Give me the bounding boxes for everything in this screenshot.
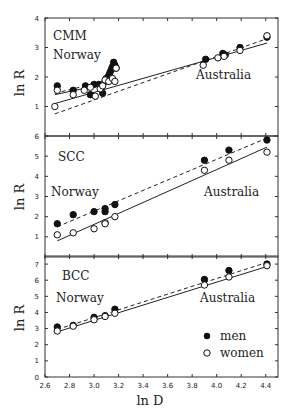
x-tick-label: 2.8 <box>64 382 75 390</box>
data-point-men <box>54 221 60 227</box>
data-point-women <box>70 230 76 236</box>
y-tick-label: 4 <box>35 309 40 317</box>
x-tick-label: 4.0 <box>211 382 222 390</box>
y-tick-label: 6 <box>35 133 40 141</box>
data-point-men <box>91 208 97 214</box>
y-tick-label: 7 <box>35 261 39 269</box>
data-point-women <box>54 328 60 334</box>
data-point-women <box>52 103 58 109</box>
legend-women-marker-icon <box>204 350 210 356</box>
data-point-women <box>221 53 227 59</box>
y-tick-label: 2 <box>35 213 39 221</box>
data-point-women <box>264 262 270 268</box>
data-point-women <box>112 310 118 316</box>
data-point-women <box>264 149 270 155</box>
panel-title-cmm: CMM <box>53 29 87 43</box>
data-point-women <box>102 313 108 319</box>
panel-title-bcc: BCC <box>62 269 89 283</box>
data-point-women <box>70 323 76 329</box>
legend-men-marker-icon <box>204 333 210 339</box>
data-point-women <box>54 232 60 238</box>
y-tick-label: 1 <box>35 233 39 241</box>
data-point-men <box>226 147 232 153</box>
annotation-australia-cmm: Australia <box>195 68 251 82</box>
data-point-women <box>91 317 97 323</box>
data-point-men <box>112 201 118 207</box>
x-tick-label: 3.8 <box>187 382 198 390</box>
data-point-women <box>102 221 108 227</box>
x-tick-label: 3.0 <box>88 382 99 390</box>
y-tick-label: 4 <box>35 15 40 23</box>
annotation-australia-scc: Australia <box>203 185 259 199</box>
y-axis-title-bcc: ln R <box>12 304 27 332</box>
annotation-australia-bcc: Australia <box>199 291 255 305</box>
x-axis-title: ln D <box>136 393 163 408</box>
y-axis-title-cmm: ln R <box>12 69 27 97</box>
legend: men women <box>204 329 264 360</box>
legend-women-label: women <box>220 346 264 360</box>
y-tick-label: 1 <box>35 357 39 365</box>
data-point-men <box>201 157 207 163</box>
data-point-women <box>81 87 87 93</box>
y-tick-label: 3 <box>35 325 39 333</box>
y-tick-label: 2 <box>35 74 39 82</box>
y-tick-label: 3 <box>35 193 39 201</box>
data-point-women <box>113 65 119 71</box>
x-tick-label: 4.2 <box>236 382 247 390</box>
x-tick-label: 3.2 <box>113 382 124 390</box>
data-point-men <box>102 208 108 214</box>
annotation-norway-cmm: Norway <box>53 48 101 62</box>
y-tick-label: 3 <box>35 44 39 52</box>
figure: 1234123456012345672.62.83.03.23.43.63.84… <box>0 0 292 419</box>
y-tick-label: 1 <box>35 103 39 111</box>
data-point-women <box>264 33 270 39</box>
data-point-men <box>70 211 76 217</box>
panel-title-scc: SCC <box>58 150 85 164</box>
data-point-women <box>201 167 207 173</box>
data-point-women <box>201 282 207 288</box>
y-tick-label: 0 <box>35 374 39 382</box>
data-point-women <box>92 93 98 99</box>
y-tick-label: 5 <box>35 293 39 301</box>
annotation-norway-bcc: Norway <box>56 291 104 305</box>
x-tick-label: 3.4 <box>138 382 150 390</box>
y-tick-label: 6 <box>35 277 40 285</box>
data-point-men <box>264 137 270 143</box>
data-point-women <box>226 157 232 163</box>
legend-men-label: men <box>220 329 246 343</box>
y-axis-title-scc: ln R <box>12 183 27 211</box>
x-tick-label: 4.4 <box>260 382 272 390</box>
data-point-women <box>215 55 221 61</box>
data-point-women <box>226 274 232 280</box>
data-point-women <box>87 84 93 90</box>
y-tick-label: 2 <box>35 341 39 349</box>
x-tick-label: 2.6 <box>39 382 51 390</box>
data-point-women <box>54 87 60 93</box>
x-tick-label: 3.6 <box>162 382 174 390</box>
data-point-men <box>226 267 232 273</box>
y-tick-label: 5 <box>35 153 39 161</box>
data-point-women <box>112 213 118 219</box>
data-point-women <box>112 78 118 84</box>
y-tick-label: 4 <box>35 173 40 181</box>
annotation-norway-scc: Norway <box>51 185 99 199</box>
data-point-women <box>91 226 97 232</box>
data-point-women <box>70 92 76 98</box>
fit-line-men <box>57 138 267 227</box>
data-point-women <box>237 47 243 53</box>
